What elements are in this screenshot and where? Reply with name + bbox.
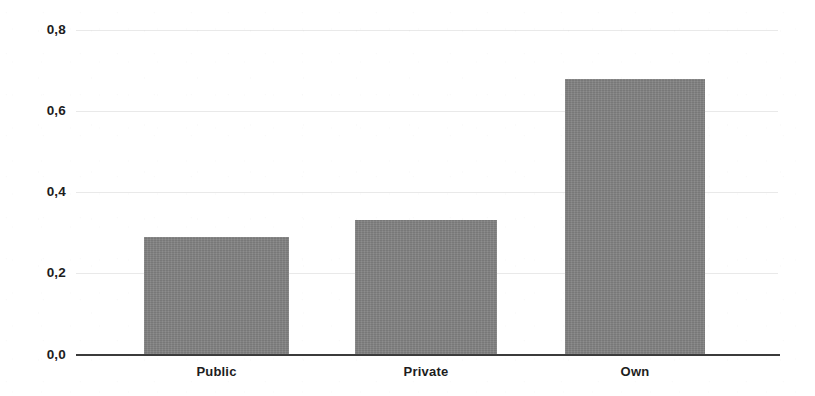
y-axis-tick-labels: 0,8 0,6 0,4 0,2 0,0	[10, 20, 66, 360]
gridline-0.8	[76, 30, 778, 31]
bar-chart: 0,8 0,6 0,4 0,2 0,0 Public Private Own	[0, 0, 815, 396]
y-tick-label-0.4: 0,4	[20, 185, 66, 199]
y-tick-label-0.6: 0,6	[20, 104, 66, 118]
bar-private	[355, 220, 497, 354]
y-tick-label-0.0: 0,0	[20, 348, 66, 362]
x-tick-label-private: Private	[355, 365, 497, 378]
x-tick-label-public: Public	[144, 365, 289, 378]
bar-public	[144, 237, 289, 354]
bar-own	[565, 79, 705, 354]
x-tick-label-own: Own	[565, 365, 705, 378]
x-axis-baseline	[76, 354, 780, 356]
y-tick-label-0.8: 0,8	[20, 23, 66, 37]
plot-area	[76, 20, 780, 360]
y-tick-label-0.2: 0,2	[20, 266, 66, 280]
